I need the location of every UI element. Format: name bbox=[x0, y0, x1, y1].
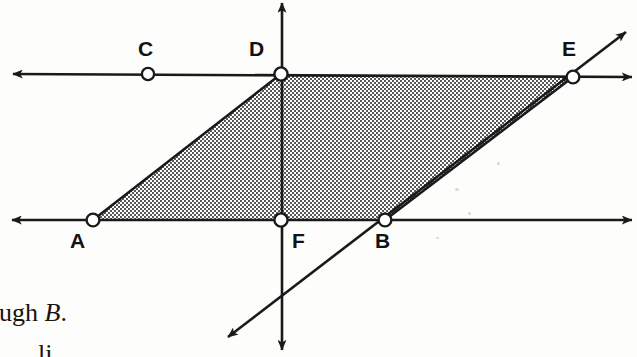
point-marker-B[interactable] bbox=[379, 214, 392, 227]
shaded-parallelogram bbox=[93, 74, 573, 220]
caption-line-1: ough B. bbox=[0, 300, 67, 326]
point-marker-E[interactable] bbox=[567, 71, 580, 84]
point-label-F: F bbox=[292, 230, 305, 251]
caption-prefix: ough bbox=[0, 298, 45, 327]
caption-line-2: li bbox=[38, 341, 52, 357]
point-marker-A[interactable] bbox=[87, 214, 100, 227]
point-marker-F[interactable] bbox=[274, 213, 287, 226]
point-label-D: D bbox=[249, 38, 264, 59]
point-label-A: A bbox=[70, 230, 85, 251]
point-label-C: C bbox=[138, 38, 153, 59]
caption-italic-point: B bbox=[45, 298, 61, 327]
scan-speck bbox=[455, 188, 459, 191]
point-marker-C[interactable] bbox=[142, 68, 154, 80]
geometry-figure: A B C D E F ough B. li bbox=[0, 0, 637, 357]
point-label-B: B bbox=[375, 230, 390, 251]
point-marker-D[interactable] bbox=[274, 67, 287, 80]
scan-speck bbox=[468, 212, 471, 215]
diagram-canvas bbox=[0, 0, 637, 357]
caption-suffix: . bbox=[60, 298, 67, 327]
scan-speck bbox=[497, 162, 500, 165]
scan-speck bbox=[436, 237, 439, 239]
point-label-E: E bbox=[562, 38, 576, 59]
upper-horizontal-line bbox=[13, 74, 632, 77]
